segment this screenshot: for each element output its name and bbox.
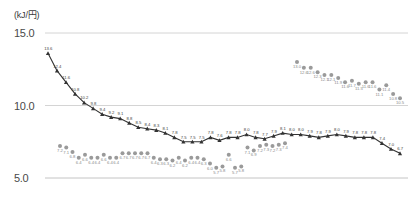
- data-label: 7.5: [181, 135, 187, 140]
- data-label: 7.8: [316, 130, 322, 135]
- data-label: 7.4: [282, 145, 288, 150]
- data-label: 7.9: [271, 129, 277, 134]
- data-label: 7.8: [172, 130, 178, 135]
- data-label: 8.4: [145, 122, 151, 127]
- data-label: 8.0: [244, 127, 250, 132]
- data-label: 8.1: [280, 126, 286, 131]
- plot-area: 13.612.411.610.810.29.89.49.29.18.88.58.…: [45, 0, 408, 211]
- y-axis-unit-label: (kJ/円): [14, 8, 39, 21]
- data-label: 9.2: [108, 110, 114, 115]
- data-label: 8.0: [334, 127, 340, 132]
- data-label: 7.8: [226, 130, 232, 135]
- data-label: 9.8: [90, 101, 96, 106]
- data-label: 7.8: [253, 130, 259, 135]
- y-axis-tick-15: 15.0: [14, 27, 34, 39]
- y-axis-tick-5: 5.0: [14, 172, 28, 184]
- data-label: 12.4: [53, 64, 62, 69]
- data-label: 8.0: [298, 127, 304, 132]
- data-label: 7.0: [388, 142, 394, 147]
- data-label: 7.8: [208, 130, 214, 135]
- data-label: 13.0: [293, 64, 302, 69]
- data-label: 7.6: [217, 133, 223, 138]
- data-label: 7.9: [307, 129, 313, 134]
- data-label: 8.0: [289, 127, 295, 132]
- chart-container: (kJ/円) 15.0 10.0 5.0 13.612.411.610.810.…: [0, 0, 408, 211]
- data-label: 11.1: [375, 92, 384, 97]
- data-label: 9.1: [117, 111, 123, 116]
- data-label: 8.8: [127, 116, 133, 121]
- data-label: 10.2: [80, 95, 89, 100]
- data-label: 8.5: [136, 120, 142, 125]
- data-label: 7.9: [325, 129, 331, 134]
- data-label: 11.6: [62, 75, 71, 80]
- data-label: 5.8: [220, 168, 226, 173]
- data-label: 8.1: [163, 126, 169, 131]
- data-label: 7.9: [343, 129, 349, 134]
- data-label: 7.8: [370, 130, 376, 135]
- data-label: 13.6: [44, 46, 53, 51]
- data-labels-layer: 13.612.411.610.810.29.89.49.29.18.88.58.…: [44, 46, 405, 175]
- data-label: 7.5: [190, 135, 196, 140]
- data-label: 6.9: [251, 152, 257, 157]
- data-label: 6.7: [397, 146, 403, 151]
- data-label: 10.5: [396, 100, 405, 105]
- data-label: 6.4: [113, 160, 119, 165]
- chart-svg: 13.612.411.610.810.29.89.49.29.18.88.58.…: [45, 0, 408, 211]
- data-label: 5.8: [238, 168, 244, 173]
- data-label: 11.6: [369, 84, 378, 89]
- data-label: 7.5: [199, 135, 205, 140]
- data-label: 6.8: [70, 154, 76, 159]
- data-label: 11.4: [382, 87, 391, 92]
- data-label: 9.4: [99, 107, 105, 112]
- data-label: 7.7: [262, 132, 268, 137]
- data-label: 6.6: [226, 157, 232, 162]
- data-label: 7.4: [379, 136, 385, 141]
- data-label: 7.8: [352, 130, 358, 135]
- data-label: 8.3: [154, 123, 160, 128]
- data-label: 10.8: [71, 87, 80, 92]
- data-label: 7.8: [235, 130, 241, 135]
- y-axis-tick-10: 10.0: [14, 100, 34, 112]
- data-label: 7.8: [361, 130, 367, 135]
